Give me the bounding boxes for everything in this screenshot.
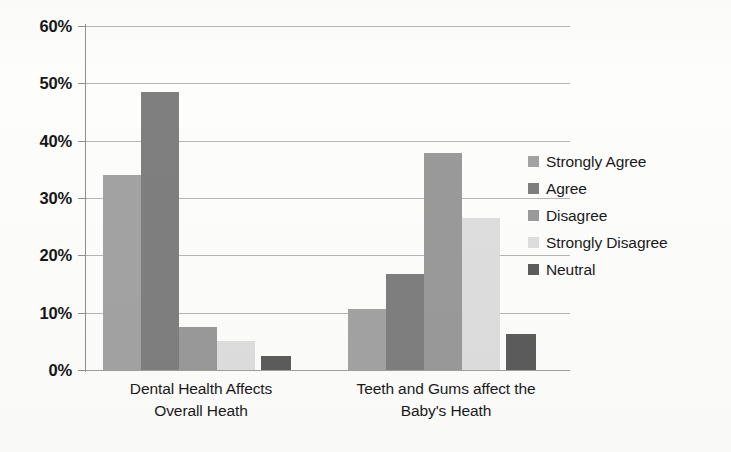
bar — [348, 309, 386, 370]
bar-group — [348, 26, 544, 370]
legend-item[interactable]: Neutral — [528, 256, 728, 283]
plot-area — [85, 26, 570, 370]
legend-item[interactable]: Disagree — [528, 202, 728, 229]
category-label-line: Teeth and Gums affect the — [321, 378, 571, 400]
bar-group — [103, 26, 299, 370]
y-axis-tickmark — [78, 198, 86, 199]
category-label-line: Baby's Heath — [321, 400, 571, 422]
bar — [386, 274, 424, 370]
bar — [103, 175, 141, 370]
y-axis-tickmark — [78, 141, 86, 142]
legend-item-label: Neutral — [546, 261, 595, 279]
x-axis-category-label: Dental Health AffectsOverall Heath — [76, 378, 326, 422]
bar — [462, 218, 500, 370]
y-axis-tick-label: 40% — [10, 131, 72, 150]
legend-item-label: Agree — [546, 180, 587, 198]
y-axis-tickmark — [78, 370, 86, 371]
axis-baseline — [85, 370, 570, 371]
bar — [217, 341, 255, 370]
y-axis-tick-label: 0% — [10, 361, 72, 380]
legend-item-label: Strongly Disagree — [546, 234, 668, 252]
bar — [261, 356, 291, 370]
bar — [424, 153, 462, 370]
y-axis-tick-label: 50% — [10, 74, 72, 93]
legend-item-label: Disagree — [546, 207, 607, 225]
y-axis-tick-label: 60% — [10, 17, 72, 36]
y-axis-tickmark — [78, 83, 86, 84]
chart-legend: Strongly AgreeAgreeDisagreeStrongly Disa… — [528, 148, 728, 283]
legend-swatch-icon — [528, 156, 539, 167]
y-axis-tick-label: 10% — [10, 303, 72, 322]
legend-item[interactable]: Agree — [528, 175, 728, 202]
x-axis-category-label: Teeth and Gums affect theBaby's Heath — [321, 378, 571, 422]
category-label-line: Overall Heath — [76, 400, 326, 422]
y-axis-tick-label: 30% — [10, 189, 72, 208]
y-axis: 60%50%40%30%20%10%0% — [0, 0, 72, 452]
y-axis-tickmark — [78, 26, 86, 27]
legend-item[interactable]: Strongly Disagree — [528, 229, 728, 256]
legend-swatch-icon — [528, 264, 539, 275]
y-axis-tickmark — [78, 255, 86, 256]
legend-item[interactable]: Strongly Agree — [528, 148, 728, 175]
grouped-bar-chart: 60%50%40%30%20%10%0% Strongly AgreeAgree… — [0, 0, 731, 452]
bar — [506, 334, 536, 370]
legend-item-label: Strongly Agree — [546, 153, 646, 171]
bar — [179, 327, 217, 370]
legend-swatch-icon — [528, 210, 539, 221]
y-axis-tickmark — [78, 313, 86, 314]
legend-swatch-icon — [528, 237, 539, 248]
y-axis-tick-label: 20% — [10, 246, 72, 265]
bar — [141, 92, 179, 370]
legend-swatch-icon — [528, 183, 539, 194]
category-label-line: Dental Health Affects — [76, 378, 326, 400]
